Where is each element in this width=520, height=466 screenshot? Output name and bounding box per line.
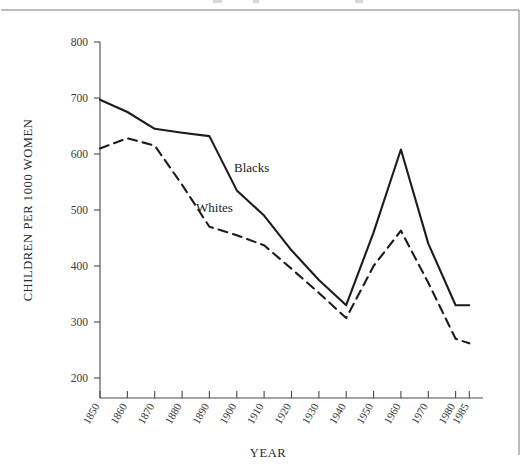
y-tick-label: 400 (71, 260, 89, 272)
x-tick-label: 1950 (354, 401, 376, 426)
scan-artifact (213, 0, 363, 3)
y-tick-label: 600 (71, 148, 89, 160)
x-tick-label: 1930 (299, 401, 321, 426)
x-axis-title: YEAR (250, 446, 286, 460)
series-label-whites: Whites (196, 200, 233, 215)
y-tick-label: 700 (71, 92, 89, 104)
y-tick-label: 300 (71, 316, 89, 328)
y-tick-labels: 800 700 600 500 400 300 200 (71, 36, 89, 384)
figure-container: 800 700 600 500 400 300 200 CHILDREN PER… (0, 0, 520, 466)
x-tick-label: 1870 (135, 401, 157, 426)
series-label-blacks: Blacks (234, 160, 269, 175)
y-tick-label: 800 (71, 36, 89, 48)
x-tick-label: 1890 (190, 401, 212, 426)
x-tick-label: 1940 (327, 401, 349, 426)
x-tick-label: 1920 (272, 401, 294, 426)
x-tick-label: 1850 (80, 401, 102, 426)
x-ticks (100, 391, 469, 398)
series-line-blacks (100, 100, 469, 306)
page-border (1, 10, 519, 455)
x-tick-labels: 1850 1860 1870 1880 1890 1900 1910 1920 … (80, 401, 471, 426)
y-axis-title: CHILDREN PER 1000 WOMEN (21, 119, 35, 302)
y-ticks (94, 42, 100, 378)
fertility-line-chart: 800 700 600 500 400 300 200 CHILDREN PER… (0, 0, 520, 466)
x-tick-label: 1960 (381, 401, 403, 426)
x-tick-label: 1985 (450, 401, 472, 426)
x-tick-label: 1880 (162, 401, 184, 426)
x-tick-label: 1910 (244, 401, 266, 426)
x-tick-label: 1970 (409, 401, 431, 426)
x-tick-label: 1900 (217, 401, 239, 426)
y-tick-label: 200 (71, 372, 89, 384)
y-tick-label: 500 (71, 204, 89, 216)
x-tick-label: 1860 (108, 401, 130, 426)
